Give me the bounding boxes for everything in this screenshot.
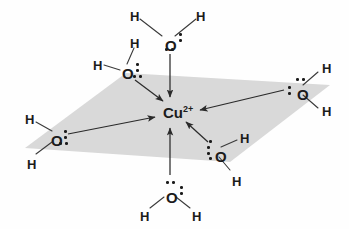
- hydrogen-label-top-0: H: [130, 10, 139, 23]
- hydrogen-label-bottom-0: H: [140, 210, 149, 223]
- hydrogen-label-right-0: H: [322, 62, 331, 75]
- hydrogen-label-upper-left-0: H: [130, 37, 139, 50]
- oh-bond-upper-left-1: [104, 65, 120, 70]
- lone-pair-dot-lower-right-3: [209, 140, 212, 143]
- hydrogen-label-right-1: H: [322, 105, 331, 118]
- lone-pair-dot-bottom-3: [180, 192, 183, 195]
- lone-pair-dot-bottom-2: [180, 186, 183, 189]
- lone-pair-dot-upper-left-0: [136, 63, 139, 66]
- oxygen-label-bottom: O: [166, 190, 178, 205]
- lone-pair-dot-top-0: [179, 33, 182, 36]
- lone-pair-dot-right-1: [302, 78, 305, 81]
- lone-pair-dot-lower-right-0: [207, 146, 210, 149]
- central-ion-symbol: Cu: [163, 104, 183, 121]
- lone-pair-dot-lower-right-1: [207, 152, 210, 155]
- lone-pair-dot-right-0: [296, 78, 299, 81]
- lone-pair-dot-left-1: [64, 136, 67, 139]
- lone-pair-dot-left-2: [59, 142, 62, 145]
- hydrogen-label-left-0: H: [25, 113, 34, 126]
- lone-pair-dot-top-1: [179, 39, 182, 42]
- oh-bond-top-0: [140, 19, 162, 36]
- lone-pair-dot-left-3: [65, 142, 68, 145]
- lone-pair-dot-bottom-0: [166, 181, 169, 184]
- lone-pair-dot-right-2: [288, 86, 291, 89]
- lone-pair-dot-top-3: [171, 48, 174, 51]
- oxygen-label-upper-left: O: [122, 66, 134, 81]
- lone-pair-dot-left-0: [64, 130, 67, 133]
- oxygen-label-top: O: [165, 38, 177, 53]
- oxygen-label-right: O: [297, 87, 309, 102]
- oh-bond-left-0: [36, 122, 52, 131]
- oh-bond-bottom-0: [150, 197, 164, 208]
- oxygen-label-left: O: [51, 133, 63, 148]
- hydrogen-label-lower-right-0: H: [240, 132, 249, 145]
- hydrogen-label-top-1: H: [196, 10, 205, 23]
- oh-bond-bottom-1: [176, 197, 190, 208]
- lone-pair-dot-upper-left-3: [139, 75, 142, 78]
- central-ion-charge: 2+: [183, 104, 193, 114]
- lone-pair-dot-lower-right-2: [209, 157, 212, 160]
- hydrogen-label-lower-right-1: H: [232, 175, 241, 188]
- lone-pair-dot-top-2: [165, 48, 168, 51]
- hydrogen-label-left-1: H: [27, 158, 36, 171]
- lone-pair-dot-right-3: [288, 92, 291, 95]
- hydrogen-label-upper-left-1: H: [93, 59, 102, 72]
- oh-bond-right-0: [303, 72, 318, 85]
- oxygen-label-lower-right: O: [215, 149, 227, 164]
- lone-pair-dot-upper-left-2: [133, 75, 136, 78]
- lone-pair-dot-upper-left-1: [136, 69, 139, 72]
- hydrogen-label-bottom-1: H: [192, 210, 201, 223]
- lone-pair-dot-bottom-1: [172, 181, 175, 184]
- chemistry-diagram-canvas: OHHOHHOHHOHHOHHOHH Cu2+: [0, 0, 349, 229]
- central-metal-ion-label: Cu2+: [163, 105, 193, 120]
